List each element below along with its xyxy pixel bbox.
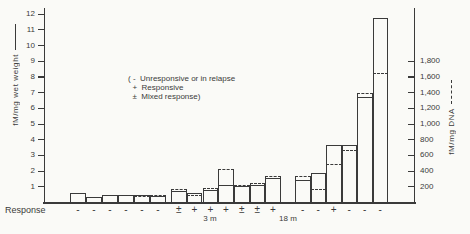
bar-wet-weight-top xyxy=(342,145,358,146)
response-symbol: - xyxy=(358,204,372,215)
left-axis-line xyxy=(44,8,45,202)
right-axis-tick xyxy=(408,171,414,172)
bar-dna-top xyxy=(373,73,389,74)
right-axis-tick xyxy=(408,124,414,125)
response-symbol: - xyxy=(135,204,149,215)
left-axis-tick xyxy=(38,139,44,140)
bar xyxy=(265,176,281,202)
bar-dna-top xyxy=(70,193,86,194)
response-symbol: ± xyxy=(235,204,249,215)
bar-dna-top xyxy=(342,150,358,151)
left-axis-tick xyxy=(38,29,44,30)
left-axis-tick xyxy=(38,76,44,77)
bar xyxy=(187,193,203,202)
bar xyxy=(357,93,373,202)
left-tick-label: 10 xyxy=(16,41,35,50)
bar-wet-weight-top xyxy=(234,186,250,187)
bar-wet-weight-top xyxy=(373,18,389,19)
response-symbol: + xyxy=(327,204,341,215)
left-tick-label: 7 xyxy=(16,88,35,97)
group-label-3m: 3 m xyxy=(194,214,226,223)
bar xyxy=(203,188,219,202)
right-tick-label: 400 xyxy=(420,166,452,175)
bar-dna-top xyxy=(102,195,118,196)
right-axis-tick xyxy=(408,108,414,109)
bar-dna-top xyxy=(326,164,342,165)
response-symbol: - xyxy=(119,204,133,215)
bar-wet-weight-top xyxy=(357,97,373,98)
left-tick-label: 1 xyxy=(16,182,35,191)
bar-wet-weight-top xyxy=(311,173,327,174)
right-tick-label: 1,400 xyxy=(420,88,452,97)
left-axis-tick xyxy=(38,155,44,156)
response-symbol: - xyxy=(71,204,85,215)
left-axis-tick xyxy=(38,124,44,125)
response-symbol: ± xyxy=(250,204,264,215)
bar xyxy=(102,195,118,202)
bar xyxy=(218,169,234,202)
right-axis-line xyxy=(414,8,415,202)
bar-dna-top xyxy=(134,196,150,197)
bar xyxy=(295,176,311,202)
response-symbol: - xyxy=(151,204,165,215)
right-axis-tick xyxy=(408,61,414,62)
bar-dna-top xyxy=(86,197,102,198)
bar-dna-top xyxy=(311,189,327,190)
response-symbol: ± xyxy=(172,204,186,215)
right-tick-label: 1,200 xyxy=(420,103,452,112)
bar-dna-top xyxy=(295,176,311,177)
left-axis-tick xyxy=(38,171,44,172)
bar-wet-weight-top xyxy=(218,185,234,186)
left-tick-label: 9 xyxy=(16,56,35,65)
plot-area: 1234567891011122004006008001,0001,2001,4… xyxy=(0,0,470,234)
left-axis-tick xyxy=(38,14,44,15)
right-axis-tick xyxy=(408,92,414,93)
bar-wet-weight-top xyxy=(171,191,187,192)
bar xyxy=(326,145,342,202)
right-axis-tick xyxy=(408,76,414,77)
bar-dna-top xyxy=(234,185,250,186)
bar-dna-top xyxy=(171,189,187,190)
left-axis-tick xyxy=(38,45,44,46)
bar-dna-top xyxy=(118,195,134,196)
left-axis-tick xyxy=(38,92,44,93)
bar xyxy=(134,195,150,202)
right-axis-tick xyxy=(408,139,414,140)
right-tick-label: 200 xyxy=(420,182,452,191)
bar xyxy=(171,189,187,202)
response-row-label: Response xyxy=(5,205,46,215)
left-axis-tick xyxy=(38,61,44,62)
left-tick-label: 5 xyxy=(16,119,35,128)
bar-dna-top xyxy=(187,195,203,196)
bar-dna-top xyxy=(250,183,266,184)
right-tick-label: 800 xyxy=(420,135,452,144)
left-tick-label: 3 xyxy=(16,150,35,159)
right-tick-label: 1,000 xyxy=(420,119,452,128)
bar xyxy=(70,193,86,202)
response-symbol: - xyxy=(373,204,387,215)
response-symbol: - xyxy=(103,204,117,215)
left-tick-label: 8 xyxy=(16,72,35,81)
bar xyxy=(250,183,266,202)
right-tick-label: 1,800 xyxy=(420,56,452,65)
left-tick-label: 2 xyxy=(16,166,35,175)
figure: fM/mg wet weight fM/mg DNA ( - Unrespons… xyxy=(0,0,470,234)
bar xyxy=(86,197,102,202)
left-tick-label: 11 xyxy=(16,25,35,34)
bar-wet-weight-top xyxy=(203,190,219,191)
left-tick-label: 6 xyxy=(16,103,35,112)
right-tick-label: 1,600 xyxy=(420,72,452,81)
left-axis-tick xyxy=(38,186,44,187)
left-axis-tick xyxy=(38,108,44,109)
left-tick-label: 4 xyxy=(16,135,35,144)
bar xyxy=(342,145,358,202)
group-label-18m: 18 m xyxy=(272,214,304,223)
bar xyxy=(234,185,250,202)
right-tick-label: 600 xyxy=(420,150,452,159)
bar-wet-weight-top xyxy=(326,145,342,146)
bar-dna-top xyxy=(203,188,219,189)
right-axis-tick xyxy=(408,155,414,156)
bar-dna-top xyxy=(265,176,281,177)
bar-dna-top xyxy=(150,195,166,196)
bar-dna-top xyxy=(357,93,373,94)
